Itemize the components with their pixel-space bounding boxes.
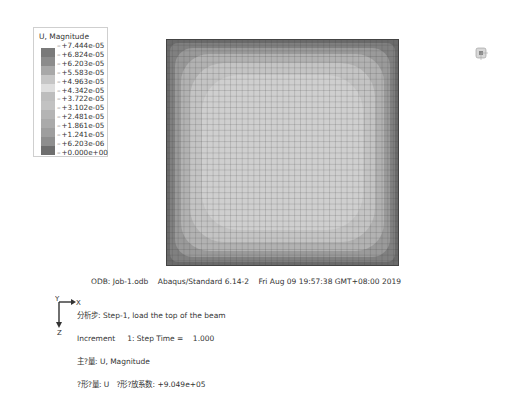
deformed-variable-line: ?形?量: U ?形?放系数: +9.049e+05: [70, 381, 226, 389]
legend-swatch: [41, 101, 55, 110]
mesh-contour-plot: [166, 39, 399, 266]
step-info-block: 分析步: Step-1, load the top of the beam In…: [70, 297, 226, 393]
legend-swatch: [41, 66, 55, 75]
legend-swatch: [41, 75, 55, 84]
view-orientation-triad-icon: [475, 46, 489, 60]
legend-swatch: [41, 57, 55, 66]
contour-plot-viewport[interactable]: [166, 39, 399, 266]
step-line: 分析步: Step-1, load the top of the beam: [70, 312, 226, 320]
legend-value: +0.000e+00: [57, 149, 108, 158]
z-axis-label: Z: [57, 329, 62, 335]
legend-swatch: [41, 110, 55, 119]
y-axis-label: Y: [55, 295, 60, 303]
legend-swatch: [41, 119, 55, 128]
legend-swatch: [41, 137, 55, 146]
legend-swatch: [41, 48, 55, 57]
legend-color-bar: [41, 48, 55, 155]
increment-line: Increment 1: Step Time = 1.000: [70, 335, 226, 343]
legend-labels: +7.444e-05+6.824e-05+6.203e-05+5.583e-05…: [57, 42, 108, 158]
legend-swatch: [41, 146, 55, 155]
contour-legend: U, Magnitude +7.444e-05+6.824e-05+6.203e…: [33, 27, 108, 157]
legend-swatch: [41, 92, 55, 101]
legend-title: U, Magnitude: [39, 32, 89, 41]
odb-info-line: ODB: Job-1.odb Abaqus/Standard 6.14-2 Fr…: [91, 277, 401, 286]
legend-swatch: [41, 128, 55, 137]
primary-variable-line: 主?量: U, Magnitude: [70, 358, 226, 366]
legend-swatch: [41, 84, 55, 93]
